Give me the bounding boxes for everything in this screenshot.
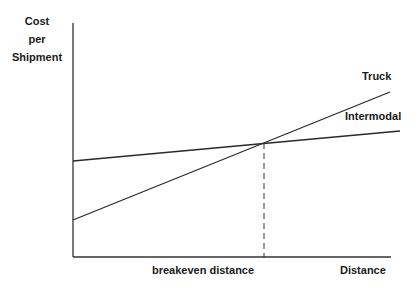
- y-axis-label-line1: Cost: [6, 12, 68, 30]
- intermodal-label: Intermodal: [345, 110, 401, 122]
- breakeven-label: breakeven distance: [152, 264, 254, 276]
- intermodal-line: [73, 131, 400, 161]
- truck-label: Truck: [362, 70, 391, 82]
- y-axis-label: Cost per Shipment: [6, 12, 68, 66]
- y-axis-label-line3: Shipment: [6, 48, 68, 66]
- x-axis-label: Distance: [340, 264, 386, 276]
- y-axis-label-line2: per: [6, 30, 68, 48]
